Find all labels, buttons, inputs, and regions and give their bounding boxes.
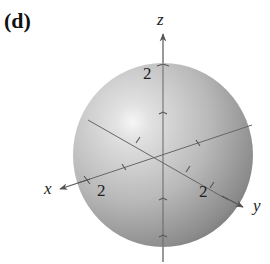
y-axis-label: y	[251, 196, 261, 215]
y-tick-label: 2	[199, 182, 208, 201]
x-tick-label: 2	[97, 181, 106, 200]
z-tick-label: 2	[143, 64, 152, 83]
z-axis-label: z	[156, 10, 164, 29]
x-axis-label: x	[43, 179, 52, 198]
sphere-diagram: z 2 x 2 2 y	[0, 0, 270, 264]
